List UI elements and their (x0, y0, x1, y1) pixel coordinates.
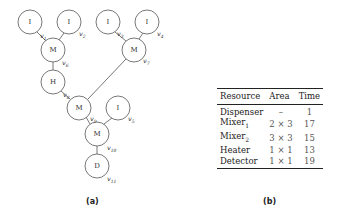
edge-m7-m9 (88, 59, 126, 99)
edge-label-v5: v5 (128, 115, 135, 124)
resource-name: Heater (217, 145, 266, 156)
table-row: Detector1 × 119 (217, 156, 323, 169)
node-label: H (50, 78, 56, 86)
table-row: Mixer12 × 317 (217, 117, 323, 131)
edge-label-v11: v11 (107, 175, 116, 184)
resource-name: Dispenser (217, 104, 266, 117)
resource-table: Resource Area Time Dispenser–1Mixer12 × … (217, 88, 323, 169)
resource-name: Mixer2 (217, 131, 266, 145)
node-label: M (130, 46, 137, 54)
node-label: M (75, 104, 82, 112)
table-header-row: Resource Area Time (217, 89, 323, 105)
table-row: Mixer23 × 315 (217, 131, 323, 145)
resource-area: 3 × 3 (266, 131, 295, 145)
edge-v5-m10 (104, 118, 112, 124)
graph-node-v10: M (85, 122, 109, 146)
caption-a: (a) (86, 197, 99, 206)
resource-area: 2 × 3 (266, 117, 295, 131)
graph-node-v11: D (85, 154, 109, 178)
edge-label-v8: v8 (63, 91, 70, 100)
table-row: Heater1 × 113 (217, 145, 323, 156)
graph-node-v9: M (67, 96, 91, 120)
resource-area: – (266, 104, 295, 117)
edge-label-v3: v3 (117, 30, 124, 39)
node-label: I (29, 18, 32, 26)
edge-label-v1: v1 (40, 32, 47, 41)
node-label: D (94, 162, 100, 170)
graph-node-h: H (41, 70, 65, 94)
node-label: I (146, 18, 149, 26)
resource-time: 1 (296, 104, 323, 117)
header-resource: Resource (217, 89, 266, 105)
resource-name: Mixer1 (217, 117, 266, 131)
table-row: Dispenser–1 (217, 104, 323, 117)
edge-label-v7: v7 (143, 57, 150, 66)
resource-time: 19 (296, 156, 323, 169)
caption-b: (b) (263, 197, 276, 206)
resource-time: 13 (296, 145, 323, 156)
edge-v2-m6 (59, 33, 64, 40)
edge-label-v4: v4 (157, 30, 164, 39)
table-body: Dispenser–1Mixer12 × 317Mixer23 × 315Hea… (217, 104, 323, 169)
header-area: Area (266, 89, 295, 105)
resource-time: 17 (296, 117, 323, 131)
graph-node-v2: I (57, 10, 81, 34)
edge-label-v10: v10 (107, 144, 117, 153)
edge-label-v2: v2 (79, 30, 86, 39)
resource-name: Detector (217, 156, 266, 169)
sequencing-graph: IIIIMMHMIMD v1v2v3v4v6v7v8v9v5v10v11 (0, 0, 190, 213)
graph-node-v5: I (106, 96, 130, 120)
edge-label-v9: v9 (90, 115, 97, 124)
resource-time: 15 (296, 131, 323, 145)
node-label: I (117, 104, 120, 112)
edge-v4-m7 (139, 33, 143, 39)
edge-label-v6: v6 (62, 59, 69, 68)
graph-node-v1: I (18, 10, 42, 34)
node-label: M (93, 130, 100, 138)
header-time: Time (296, 89, 323, 105)
node-label: M (49, 46, 56, 54)
resource-area: 1 × 1 (266, 156, 295, 169)
node-label: I (68, 18, 71, 26)
node-label: I (107, 18, 110, 26)
resource-area: 1 × 1 (266, 145, 295, 156)
graph-node-v4: I (135, 10, 159, 34)
